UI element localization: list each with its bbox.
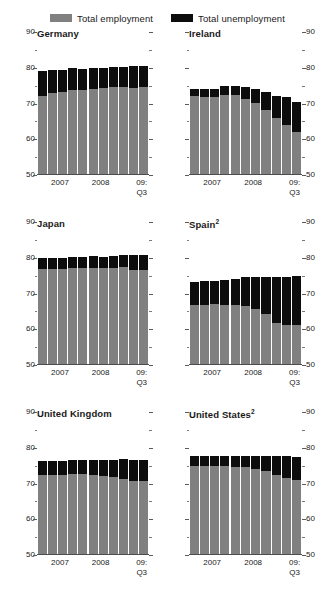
y-axis-tick-labels: 5060708090 bbox=[306, 222, 328, 365]
bar bbox=[129, 412, 138, 555]
bar bbox=[99, 222, 108, 365]
bar-segment-employment bbox=[109, 268, 118, 365]
bar-segment-employment bbox=[78, 474, 87, 555]
y-axis-tick-major bbox=[302, 175, 306, 176]
x-axis-label: 09: Q3 bbox=[136, 558, 147, 578]
bar bbox=[89, 32, 98, 175]
bar bbox=[78, 32, 87, 175]
bar-segment-employment bbox=[190, 305, 199, 365]
x-axis-label: 2008 bbox=[244, 178, 262, 188]
y-axis-tick-minor bbox=[302, 50, 305, 51]
bar bbox=[119, 412, 128, 555]
bar-segment-unemployment bbox=[251, 89, 260, 103]
x-axis-line bbox=[189, 174, 302, 175]
bar bbox=[119, 32, 128, 175]
plot-area: 5060708090 bbox=[37, 32, 149, 175]
bar-segment-employment bbox=[261, 471, 270, 555]
y-axis-tick-major bbox=[302, 104, 306, 105]
bar-segment-unemployment bbox=[89, 460, 98, 475]
bar-segment-employment bbox=[78, 268, 87, 365]
bar-segment-employment bbox=[241, 467, 250, 555]
bar-segment-employment bbox=[200, 466, 209, 555]
bar-segment-employment bbox=[109, 477, 118, 555]
y-axis-ticks bbox=[149, 222, 155, 365]
bar-segment-employment bbox=[272, 475, 281, 555]
bar-segment-employment bbox=[99, 476, 108, 555]
bar bbox=[200, 32, 209, 175]
y-axis-ticks bbox=[149, 412, 155, 555]
bar-segment-unemployment bbox=[282, 456, 291, 478]
bar bbox=[272, 412, 281, 555]
bar-segment-unemployment bbox=[78, 460, 87, 474]
bar bbox=[38, 412, 47, 555]
y-axis-tick-major bbox=[33, 365, 37, 366]
bar-segment-unemployment bbox=[210, 281, 219, 305]
bar-segment-unemployment bbox=[38, 461, 47, 475]
y-axis-tick-major bbox=[302, 222, 306, 223]
bar bbox=[251, 412, 260, 555]
y-axis-tick-major bbox=[302, 412, 306, 413]
y-axis-tick-major bbox=[302, 365, 306, 366]
bar-segment-employment bbox=[231, 95, 240, 175]
y-axis-tick-labels: 5060708090 bbox=[306, 32, 328, 175]
plot-area: 5060708090 bbox=[37, 222, 149, 365]
x-axis-label: 2008 bbox=[244, 368, 262, 378]
bar-segment-unemployment bbox=[48, 461, 57, 475]
plot-area: 5060708090 bbox=[189, 32, 302, 175]
bar-segment-unemployment bbox=[99, 460, 108, 476]
y-axis-tick-major bbox=[149, 175, 153, 176]
bar-series bbox=[37, 222, 149, 365]
x-axis-label: 2008 bbox=[244, 558, 262, 568]
bar bbox=[119, 222, 128, 365]
bar-segment-unemployment bbox=[200, 456, 209, 466]
y-axis-ticks bbox=[149, 32, 155, 175]
bar bbox=[190, 222, 199, 365]
bar-segment-employment bbox=[220, 305, 229, 365]
bar-segment-employment bbox=[109, 87, 118, 175]
y-axis-tick-major bbox=[149, 294, 153, 295]
bar-segment-unemployment bbox=[109, 460, 118, 478]
y-axis-tick-minor bbox=[149, 347, 152, 348]
bar-segment-unemployment bbox=[261, 277, 270, 313]
bar bbox=[68, 412, 77, 555]
legend-label-total-unemployment: Total unemployment bbox=[198, 13, 285, 24]
y-axis-tick-minor bbox=[149, 86, 152, 87]
y-axis-tick-minor bbox=[149, 276, 152, 277]
y-axis-tick-label: 90 bbox=[306, 28, 328, 36]
y-axis-tick-minor bbox=[149, 121, 152, 122]
bar bbox=[251, 222, 260, 365]
bar bbox=[38, 222, 47, 365]
x-axis-label: 2007 bbox=[203, 558, 221, 568]
bar-segment-employment bbox=[58, 475, 67, 555]
bar bbox=[261, 32, 270, 175]
bar bbox=[231, 412, 240, 555]
bar bbox=[292, 32, 301, 175]
bar bbox=[139, 32, 148, 175]
bar-segment-unemployment bbox=[48, 258, 57, 269]
bar-segment-employment bbox=[38, 475, 47, 555]
y-axis-tick-label: 70 bbox=[306, 290, 328, 298]
x-axis-labels: 2007200809: Q3 bbox=[189, 368, 302, 402]
bar bbox=[210, 32, 219, 175]
bar-segment-employment bbox=[48, 269, 57, 365]
bar-segment-employment bbox=[58, 92, 67, 175]
bar-segment-employment bbox=[220, 95, 229, 175]
bar-segment-unemployment bbox=[220, 456, 229, 467]
y-axis-tick-label: 50 bbox=[306, 171, 328, 179]
y-axis-tick-minor bbox=[302, 311, 305, 312]
bar bbox=[282, 32, 291, 175]
x-axis-labels: 2007200809: Q3 bbox=[189, 558, 302, 592]
legend-label-total-employment: Total employment bbox=[77, 13, 153, 24]
bar-segment-unemployment bbox=[220, 280, 229, 305]
bar bbox=[241, 32, 250, 175]
x-axis-label: 2007 bbox=[203, 368, 221, 378]
bar bbox=[292, 222, 301, 365]
bar-segment-employment bbox=[241, 306, 250, 365]
bar-segment-employment bbox=[292, 132, 301, 175]
x-axis-label: 09: Q3 bbox=[289, 558, 300, 578]
bar bbox=[272, 32, 281, 175]
bar-segment-employment bbox=[210, 466, 219, 555]
bar bbox=[58, 412, 67, 555]
bar-segment-employment bbox=[48, 475, 57, 555]
x-axis-label: 2008 bbox=[92, 368, 110, 378]
